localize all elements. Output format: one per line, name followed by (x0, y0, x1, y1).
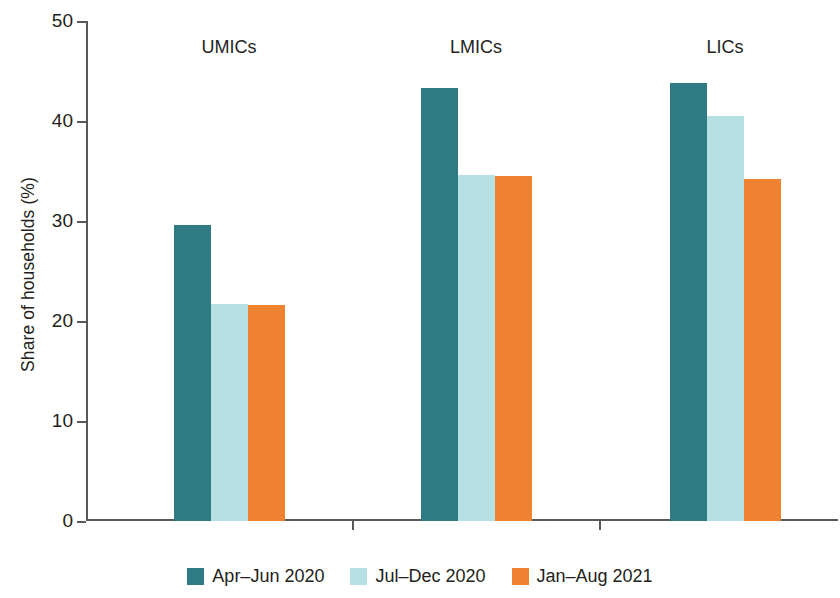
legend-swatch-icon (512, 568, 529, 585)
bar (174, 225, 211, 521)
legend-item: Apr–Jun 2020 (187, 566, 324, 587)
y-tick-mark (77, 321, 86, 323)
y-tick-mark (77, 21, 86, 23)
legend-label: Jul–Dec 2020 (375, 566, 485, 587)
y-axis-title: Share of households (%) (18, 65, 39, 485)
x-tick-mark (352, 521, 354, 530)
legend-label: Apr–Jun 2020 (212, 566, 324, 587)
y-tick-label: 40 (52, 110, 73, 132)
chart-legend: Apr–Jun 2020Jul–Dec 2020Jan–Aug 2021 (0, 566, 840, 587)
legend-item: Jan–Aug 2021 (512, 566, 653, 587)
bar-chart: Share of households (%) 01020304050 UMIC… (0, 0, 840, 598)
y-tick-mark (77, 221, 86, 223)
bar (670, 83, 707, 521)
y-tick-label: 0 (62, 510, 73, 532)
bar (248, 305, 285, 521)
y-tick-label: 30 (52, 210, 73, 232)
y-tick-label: 20 (52, 310, 73, 332)
x-tick-mark (599, 521, 601, 530)
bar (744, 179, 781, 521)
legend-swatch-icon (187, 568, 204, 585)
legend-swatch-icon (350, 568, 367, 585)
y-tick-mark (77, 521, 86, 523)
y-tick-label: 50 (52, 10, 73, 32)
bar (421, 88, 458, 521)
bar (211, 304, 248, 521)
bar (707, 116, 744, 521)
y-tick-mark (77, 121, 86, 123)
plot-area: 01020304050 UMICsLMICsLICs (86, 21, 838, 521)
legend-item: Jul–Dec 2020 (350, 566, 485, 587)
y-tick-mark (77, 421, 86, 423)
bars-layer (86, 21, 838, 521)
legend-label: Jan–Aug 2021 (537, 566, 653, 587)
bar (495, 176, 532, 521)
y-tick-label: 10 (52, 410, 73, 432)
x-axis-category-label: LMICs (450, 37, 502, 58)
x-axis-category-label: LICs (706, 37, 743, 58)
bar (458, 175, 495, 521)
x-axis-category-label: UMICs (202, 37, 257, 58)
